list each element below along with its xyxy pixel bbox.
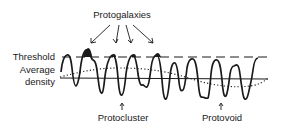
long-wavelength-curve xyxy=(60,68,268,87)
threshold-label: Threshold xyxy=(13,51,55,62)
bottom-arrows xyxy=(120,103,223,110)
protogalaxy-peaks xyxy=(83,48,161,57)
average-label: Average xyxy=(20,64,55,75)
density-label: density xyxy=(25,76,55,87)
protovoid-label: Protovoid xyxy=(202,112,242,123)
density-waveform xyxy=(61,50,258,99)
protogalaxies-label: Protogalaxies xyxy=(93,9,151,20)
density-fluctuation-diagram: Protogalaxies Threshold Average density … xyxy=(0,0,284,130)
average-density-line xyxy=(60,78,268,79)
protogalaxy-arrows xyxy=(91,25,153,43)
protocluster-label: Protocluster xyxy=(98,112,149,123)
